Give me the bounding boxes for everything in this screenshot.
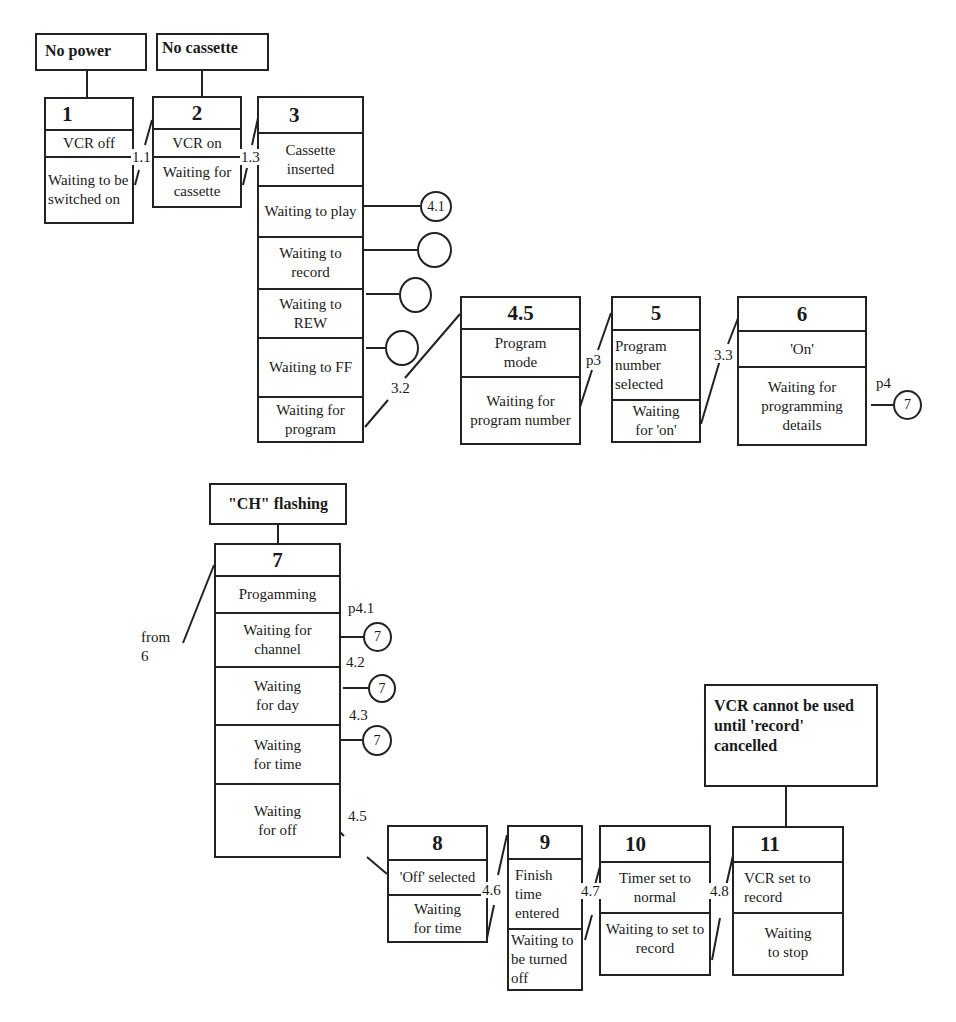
transition-label-3-2: 3.2 xyxy=(390,380,411,396)
state-section: Waiting for cassette xyxy=(154,158,240,206)
state-10: 10 Timer set to normal Waiting to set to… xyxy=(599,825,711,976)
note-no-power: No power xyxy=(35,33,147,71)
state-number: 1 xyxy=(46,99,132,131)
state-number: 11 xyxy=(734,828,842,863)
state-section: VCR off xyxy=(46,131,132,158)
state-3: 3 Cassette inserted Waiting to play Wait… xyxy=(257,96,364,443)
state-section: Cassette inserted xyxy=(259,134,362,187)
state-section: Waiting to play xyxy=(259,187,362,238)
state-section: Waiting for time xyxy=(216,726,339,785)
transition-label-p4: p4 xyxy=(875,375,892,391)
state-section: Timer set to normal xyxy=(601,863,709,914)
state-5: 5 Program number selected Waiting for 'o… xyxy=(611,296,701,443)
state-section: VCR set to record xyxy=(734,863,842,914)
state-section: Waiting to set to record xyxy=(601,914,709,974)
state-number: 4.5 xyxy=(462,298,579,330)
state-number: 9 xyxy=(509,827,581,860)
state-section: Waiting for program number xyxy=(462,378,579,443)
state-7: 7 Progamming Waiting for channel Waiting… xyxy=(214,543,341,858)
state-4-5: 4.5 Program mode Waiting for program num… xyxy=(460,296,581,445)
state-section: Waiting for channel xyxy=(216,614,339,668)
note-no-cassette: No cassette xyxy=(156,33,269,71)
transition-label-1-1: 1.1 xyxy=(131,149,152,165)
state-11: 11 VCR set to record Waiting to stop xyxy=(732,826,844,976)
transition-label-3-3: 3.3 xyxy=(713,347,734,363)
state-1: 1 VCR off Waiting to be switched on xyxy=(44,97,134,224)
state-section: Progamming xyxy=(216,577,339,614)
transition-label-1-3: 1.3 xyxy=(240,149,261,165)
state-section: Program mode xyxy=(462,330,579,378)
state-section: VCR on xyxy=(154,130,240,158)
state-section: Waiting to record xyxy=(259,238,362,290)
connector-circle-7-day: 7 xyxy=(368,674,396,703)
transition-label-4-2: 4.2 xyxy=(345,654,366,670)
transition-label-p4-1: p4.1 xyxy=(347,600,375,616)
note-vcr-cannot-be-used: VCR cannot be used until 'record' cancel… xyxy=(704,684,878,787)
from-6-label: from 6 xyxy=(140,628,182,666)
transition-label-p3: p3 xyxy=(585,352,602,368)
state-section: Waiting for off xyxy=(216,785,339,856)
state-section: Waiting to be switched on xyxy=(46,158,132,222)
state-section: Waiting to FF xyxy=(259,339,362,398)
state-section: Waiting for program xyxy=(259,398,362,441)
state-section: Waiting for time xyxy=(389,896,486,941)
transition-label-4-8: 4.8 xyxy=(709,883,730,899)
state-section: 'On' xyxy=(739,332,865,368)
connector-circle-7-details: 7 xyxy=(893,390,922,420)
state-section: Waiting for programming details xyxy=(739,368,865,444)
connector-circle-7-channel: 7 xyxy=(363,622,392,652)
connector-circle-4-1: 4.1 xyxy=(420,191,452,222)
state-section: Waiting to be turned off xyxy=(509,930,581,989)
transition-label-4-5: 4.5 xyxy=(347,808,368,824)
transition-label-4-6: 4.6 xyxy=(481,882,502,898)
state-section: Finish time entered xyxy=(509,860,581,930)
state-section: Waiting for day xyxy=(216,668,339,726)
connector-circle-record xyxy=(417,232,452,268)
state-number: 3 xyxy=(259,98,362,134)
state-number: 6 xyxy=(739,298,865,332)
state-section: Waiting to stop xyxy=(734,914,842,974)
state-number: 7 xyxy=(216,545,339,577)
note-ch-flashing: "CH" flashing xyxy=(209,483,347,525)
note-text: No power xyxy=(45,42,111,59)
transition-label-4-7: 4.7 xyxy=(580,883,601,899)
note-text: "CH" flashing xyxy=(228,495,328,512)
connector-circle-rew xyxy=(399,277,432,313)
state-6: 6 'On' Waiting for programming details xyxy=(737,296,867,446)
connector-circle-ff xyxy=(385,330,419,366)
state-8: 8 'Off' selected Waiting for time xyxy=(387,825,488,943)
state-section: Program number selected xyxy=(613,331,699,401)
transition-label-4-3: 4.3 xyxy=(348,707,369,723)
state-number: 2 xyxy=(154,98,240,130)
state-section: 'Off' selected xyxy=(389,861,486,896)
state-section: Waiting to REW xyxy=(259,290,362,339)
state-section: Waiting for 'on' xyxy=(613,401,699,441)
state-number: 5 xyxy=(613,298,699,331)
state-9: 9 Finish time entered Waiting to be turn… xyxy=(507,825,583,991)
state-number: 8 xyxy=(389,827,486,861)
state-2: 2 VCR on Waiting for cassette xyxy=(152,96,242,208)
state-number: 10 xyxy=(601,827,709,863)
note-text: No cassette xyxy=(162,39,238,56)
note-text: VCR cannot be used until 'record' cancel… xyxy=(714,697,854,754)
connector-circle-7-time: 7 xyxy=(362,725,392,756)
